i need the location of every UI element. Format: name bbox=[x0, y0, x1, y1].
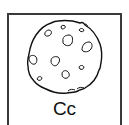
cookie-outline bbox=[28, 21, 102, 94]
letter-label: Cc bbox=[0, 98, 129, 120]
